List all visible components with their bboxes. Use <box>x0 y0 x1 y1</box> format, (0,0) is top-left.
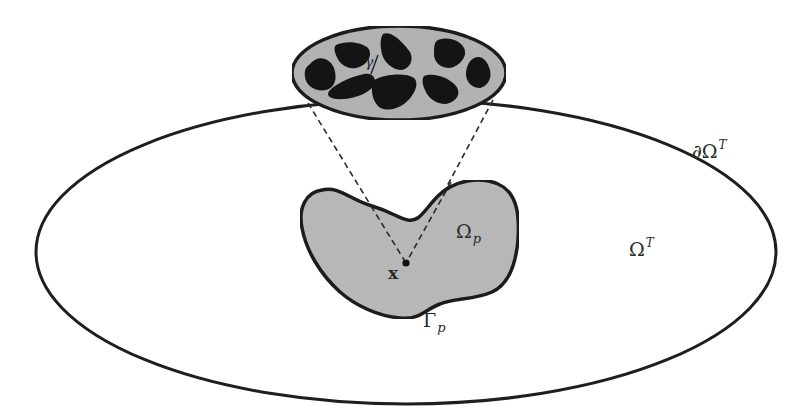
label-gamma-text: γ <box>365 54 373 70</box>
diagram-canvas: γ ∂ΩT ΩT Ωp Γp x <box>0 0 808 419</box>
label-subdomain-base: Ω <box>456 220 472 242</box>
label-micro-interface: γ <box>365 55 373 69</box>
label-outer-boundary-sup: T <box>719 138 727 152</box>
label-subdomain-sub: p <box>473 231 481 246</box>
label-point-x: x <box>388 265 398 282</box>
label-outer-domain-sup: T <box>646 236 654 250</box>
label-subdomain-boundary: Γp <box>423 311 446 330</box>
label-subdomain: Ωp <box>456 222 481 241</box>
label-outer-domain: ΩT <box>629 240 654 259</box>
point-x-marker <box>402 259 409 266</box>
label-outer-domain-base: Ω <box>629 238 645 260</box>
label-outer-boundary: ∂ΩT <box>692 142 727 161</box>
label-subdomain-boundary-sub: p <box>437 320 445 335</box>
label-point-x-text: x <box>388 263 398 283</box>
label-outer-boundary-base: ∂Ω <box>692 140 718 162</box>
label-subdomain-boundary-base: Γ <box>423 309 436 331</box>
diagram-figure <box>0 0 808 419</box>
